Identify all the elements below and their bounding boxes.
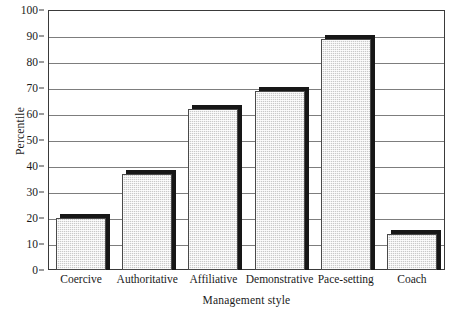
y-tick-label: 50 [27,134,39,146]
y-tick-label: 20 [27,212,39,224]
y-tick-mark [39,10,44,11]
y-tick-mark [39,62,44,63]
plot-area [48,10,445,270]
y-axis-tick-labels: 0102030405060708090100 [0,10,44,270]
y-tick-label: 70 [27,82,39,94]
x-tick-label: Pace-setting [318,273,374,285]
gridline [49,37,444,38]
x-axis-tick-labels: CoerciveAuthoritativeAffiliativeDemonstr… [48,273,445,293]
x-tick-label: Affiliative [190,273,238,285]
y-tick-label: 100 [21,4,38,16]
gridline [49,245,444,246]
gridline [49,63,444,64]
gridline [49,167,444,168]
x-tick-label: Coach [397,273,426,285]
gridline [49,219,444,220]
y-tick-label: 60 [27,108,39,120]
y-tick-mark [39,140,44,141]
y-tick-mark [39,36,44,37]
y-tick-label: 10 [27,238,39,250]
x-axis-title: Management style [48,294,445,306]
gridline [49,141,444,142]
y-tick-mark [39,218,44,219]
y-tick-mark [39,114,44,115]
gridline [49,115,444,116]
y-tick-mark [39,88,44,89]
x-tick-label: Coercive [60,273,102,285]
y-tick-label: 30 [27,186,39,198]
y-tick-label: 90 [27,30,39,42]
y-tick-label: 40 [27,160,39,172]
x-tick-label: Demonstrative [246,273,314,285]
y-tick-label: 0 [32,264,38,276]
bar-chart-figure: Percentile 0102030405060708090100 Coerci… [0,0,462,316]
gridline [49,193,444,194]
y-tick-mark [39,166,44,167]
y-tick-label: 80 [27,56,39,68]
y-tick-mark [39,192,44,193]
gridline [49,89,444,90]
y-tick-mark [39,270,44,271]
y-tick-mark [39,244,44,245]
x-tick-label: Authoritative [117,273,178,285]
